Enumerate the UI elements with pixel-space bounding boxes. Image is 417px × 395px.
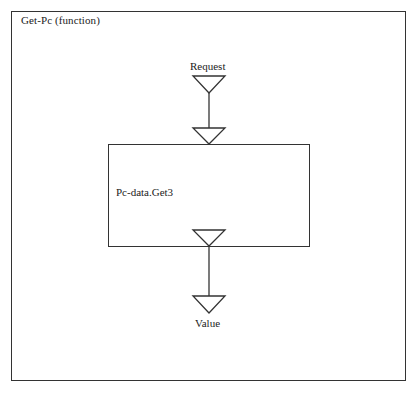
process-input-port-icon[interactable]: [193, 128, 225, 144]
process-output-port-icon[interactable]: [193, 230, 225, 246]
connection-lines: [0, 0, 417, 395]
value-port-icon[interactable]: [193, 296, 225, 313]
request-port-icon[interactable]: [193, 76, 225, 93]
